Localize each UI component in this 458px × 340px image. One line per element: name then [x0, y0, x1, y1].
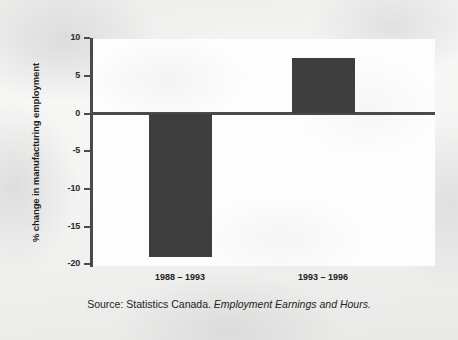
zero-baseline [90, 112, 435, 115]
y-axis-tick-mark [84, 226, 90, 228]
y-axis-tick-mark [84, 188, 90, 190]
y-axis-tick-label: -20 [40, 258, 80, 268]
source-note: Source: Statistics Canada. Employment Ea… [0, 298, 458, 310]
y-axis-tick-label: 10 [40, 32, 80, 42]
y-axis-tick-mark [84, 113, 90, 115]
y-axis-tick-label: 0 [40, 108, 80, 118]
plot-area [92, 39, 435, 266]
x-axis-category-label: 1993 – 1996 [263, 272, 383, 282]
bar-1 [149, 114, 212, 257]
y-axis-title: % change in manufacturing employment [30, 38, 41, 268]
y-axis-tick-mark [84, 75, 90, 77]
x-axis-category-label: 1988 – 1993 [120, 272, 240, 282]
y-axis-line [90, 38, 93, 267]
y-axis-tick-mark [84, 37, 90, 39]
y-axis-tick-label: -15 [40, 221, 80, 231]
y-axis-tick-label: 5 [40, 70, 80, 80]
y-axis-tick-label: -10 [40, 183, 80, 193]
y-axis-tick-label: -5 [40, 145, 80, 155]
source-prefix: Source: Statistics Canada. [87, 298, 214, 310]
figure-chart-manufacturing-employment: % change in manufacturing employment 105… [0, 0, 458, 340]
y-axis-tick-mark [84, 150, 90, 152]
y-axis-tick-mark [84, 263, 90, 265]
bar-2 [292, 58, 355, 114]
source-publication: Employment Earnings and Hours. [214, 298, 371, 310]
